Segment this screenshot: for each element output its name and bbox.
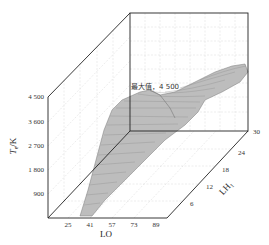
svg-text:18: 18 xyxy=(222,166,230,174)
svg-text:1 800: 1 800 xyxy=(28,166,44,174)
svg-text:900: 900 xyxy=(34,190,45,198)
svg-text:25: 25 xyxy=(65,221,73,229)
svg-text:4 500: 4 500 xyxy=(28,93,44,101)
svg-text:2 700: 2 700 xyxy=(28,142,44,150)
svg-text:3 600: 3 600 xyxy=(28,118,44,126)
svg-text:57: 57 xyxy=(109,221,117,229)
svg-text:73: 73 xyxy=(131,221,139,229)
surface-chart: 最大值，4 500 4 500 3 600 2 700 1 800 900 Te… xyxy=(0,0,269,245)
svg-text:30: 30 xyxy=(253,128,261,136)
x-axis-label: LO xyxy=(100,229,112,239)
svg-text:41: 41 xyxy=(87,221,95,229)
x-axis-ticks: 25 41 57 73 89 xyxy=(65,221,161,229)
svg-text:Te/K: Te/K xyxy=(8,137,19,154)
svg-text:24: 24 xyxy=(238,149,246,157)
svg-text:LH1: LH1 xyxy=(217,179,235,198)
z-axis-ticks: 4 500 3 600 2 700 1 800 900 xyxy=(28,93,44,198)
y-axis-label: LH1 xyxy=(217,179,235,198)
max-value-annotation: 最大值，4 500 xyxy=(131,82,179,91)
svg-text:89: 89 xyxy=(153,221,161,229)
svg-text:6: 6 xyxy=(190,200,194,208)
z-axis-label: Te/K xyxy=(8,137,19,154)
svg-text:12: 12 xyxy=(206,183,214,191)
